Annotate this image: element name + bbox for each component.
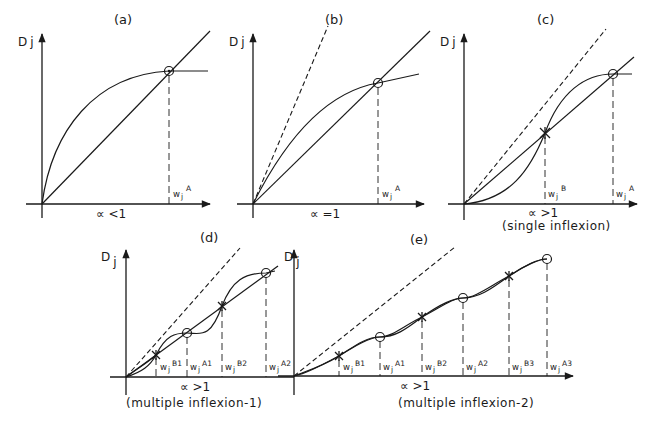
condition-label: ∝ >1 — [528, 206, 558, 220]
star-marker-b — [540, 127, 550, 139]
panel-d: (d) Dj wjB1 wjA1 wjB2 wjA2 ∝ >1 (multipl… — [101, 230, 294, 410]
w-label-a1: wjA1 — [383, 359, 405, 374]
panel-subtitle: (multiple inflexion-2) — [398, 396, 534, 410]
w-label: wjA — [382, 184, 401, 201]
y-axis-label: Dj — [229, 35, 245, 49]
panel-e-title: (e) — [410, 232, 428, 247]
w-label: wjA — [173, 184, 192, 201]
reference-line — [464, 57, 634, 204]
star-marker-b1 — [152, 350, 160, 360]
condition-label: ∝ >1 — [400, 379, 430, 393]
w-label-b1: wjB1 — [160, 359, 182, 374]
w-label-b2: wjB2 — [425, 359, 447, 374]
d-curve — [42, 71, 208, 204]
w-label-a: wjA — [616, 184, 635, 201]
w-label-a3: wjA3 — [550, 359, 572, 374]
d-curve-lower — [126, 355, 156, 377]
y-axis-label: Dj — [18, 35, 34, 49]
star-marker-b1 — [335, 351, 343, 361]
panel-c: (c) Dj wjB wjA ∝ >1 (single inflexion) — [440, 12, 637, 233]
panel-e: (e) Dj wjB1 wjA1 wjB2 — [278, 232, 573, 410]
y-axis-label: Dj — [284, 250, 300, 269]
y-axis-label: Dj — [440, 35, 456, 49]
panel-a: (a) Dj wjA ∝ <1 — [18, 12, 210, 221]
reference-line — [253, 31, 430, 204]
panel-subtitle: (single inflexion) — [502, 219, 611, 233]
panel-d-title: (d) — [200, 230, 218, 245]
star-marker-b3 — [505, 271, 513, 281]
w-label-a2: wjA2 — [269, 359, 291, 374]
tangent-dashed-line — [464, 29, 606, 204]
w-label-b1: wjB1 — [343, 359, 365, 374]
panel-b-title: (b) — [325, 12, 343, 27]
star-marker-b2 — [218, 301, 226, 311]
w-label-b3: wjB3 — [512, 359, 534, 374]
w-label-a1: wjA1 — [190, 359, 212, 374]
condition-label: ∝ =1 — [310, 207, 340, 221]
w-label-a2: wjA2 — [466, 359, 488, 374]
y-axis-label: Dj — [101, 250, 117, 269]
tangent-dashed-line — [126, 248, 240, 377]
w-label-b: wjB — [548, 184, 566, 201]
reference-line — [42, 31, 210, 204]
panel-a-title: (a) — [114, 12, 132, 27]
d-curve — [464, 74, 632, 204]
star-marker-b2 — [418, 312, 426, 322]
panel-subtitle: (multiple inflexion-1) — [126, 396, 262, 410]
panel-b: (b) Dj wjA ∝ =1 — [229, 12, 430, 221]
condition-label: ∝ >1 — [180, 380, 210, 394]
panel-c-title: (c) — [537, 12, 554, 27]
circle-dot — [168, 70, 170, 72]
inflexion-diagram: (a) Dj wjA ∝ <1 (b) Dj wjA ∝ =1 (c) Dj — [0, 0, 655, 436]
w-label-b2: wjB2 — [225, 359, 247, 374]
condition-label: ∝ <1 — [96, 207, 126, 221]
